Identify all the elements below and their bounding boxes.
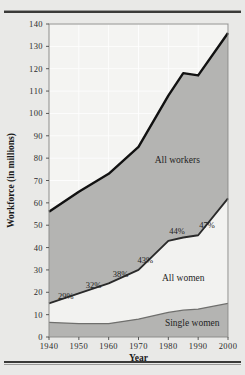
y-tick-label: 130 bbox=[29, 41, 43, 51]
series-label-all-workers: All workers bbox=[155, 155, 200, 165]
y-tick-label: 110 bbox=[29, 86, 43, 96]
y-axis-title: Workforce (in millions) bbox=[6, 133, 17, 228]
percent-label: 44% bbox=[169, 226, 185, 236]
percent-label: 43% bbox=[138, 255, 154, 265]
y-tick-label: 70 bbox=[34, 176, 43, 186]
x-tick-label: 1980 bbox=[159, 341, 178, 351]
y-tick-label: 30 bbox=[34, 265, 43, 275]
y-tick-label: 40 bbox=[34, 243, 43, 253]
y-tick-label: 100 bbox=[29, 108, 43, 118]
area-chart: 0102030405060708090100110120130140194019… bbox=[0, 0, 245, 375]
chart-plot-area: 0102030405060708090100110120130140194019… bbox=[0, 0, 245, 375]
percent-label: 47% bbox=[199, 220, 215, 230]
y-tick-label: 50 bbox=[34, 220, 43, 230]
x-tick-label: 1970 bbox=[129, 341, 148, 351]
series-label-single-women: Single women bbox=[165, 318, 220, 328]
percent-label: 32% bbox=[86, 280, 102, 290]
y-tick-label: 20 bbox=[34, 287, 43, 297]
series-label-all-women: All women bbox=[162, 273, 205, 283]
y-tick-label: 90 bbox=[34, 131, 43, 141]
percent-label: 38% bbox=[113, 269, 129, 279]
y-tick-label: 10 bbox=[34, 310, 43, 320]
x-tick-label: 1940 bbox=[40, 341, 59, 351]
x-axis-title: Year bbox=[129, 353, 149, 363]
percent-label: 29% bbox=[58, 291, 74, 301]
x-axis: 1940195019601970198019902000 bbox=[40, 337, 238, 351]
y-tick-label: 60 bbox=[34, 198, 43, 208]
figure: 0102030405060708090100110120130140194019… bbox=[0, 0, 245, 375]
x-tick-label: 1950 bbox=[70, 341, 89, 351]
y-tick-label: 140 bbox=[29, 19, 43, 29]
x-tick-label: 1960 bbox=[99, 341, 118, 351]
x-tick-label: 1990 bbox=[189, 341, 208, 351]
y-axis: 0102030405060708090100110120130140 bbox=[29, 19, 49, 342]
x-tick-label: 2000 bbox=[219, 341, 238, 351]
y-tick-label: 80 bbox=[34, 153, 43, 163]
y-tick-label: 120 bbox=[29, 64, 43, 74]
